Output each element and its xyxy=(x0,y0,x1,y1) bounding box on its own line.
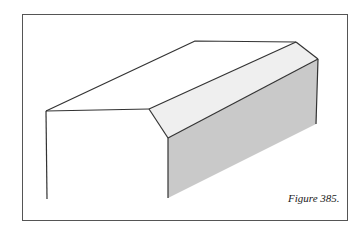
front-top-edge xyxy=(46,109,149,111)
front-left-vertical-edge xyxy=(46,111,47,199)
figure-caption: Figure 385. xyxy=(288,192,340,204)
